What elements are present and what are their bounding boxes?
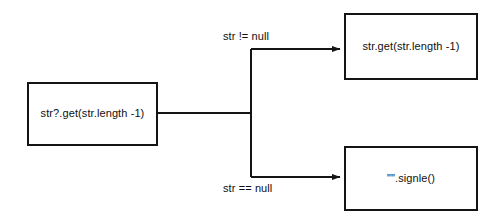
node-source-expression-label: str?.get(str.length -1) [41, 107, 145, 120]
node-source-expression[interactable]: str?.get(str.length -1) [27, 82, 158, 146]
edge-label-not-null: str != null [223, 30, 269, 42]
flowchart-canvas: str?.get(str.length -1) str.get(str.leng… [0, 0, 497, 222]
node-is-null-result-label: "".signle() [387, 172, 435, 185]
node-not-null-result[interactable]: str.get(str.length -1) [344, 13, 478, 80]
edge-label-is-null: str == null [223, 182, 272, 194]
node-is-null-result[interactable]: "".signle() [344, 146, 478, 211]
node-not-null-result-label: str.get(str.length -1) [363, 40, 460, 53]
